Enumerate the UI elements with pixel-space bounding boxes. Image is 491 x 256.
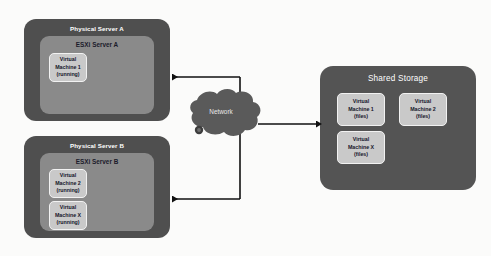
vm-label-line3: (files) <box>354 151 368 159</box>
vm-label-line2: Machine 1 <box>348 106 374 114</box>
vm-box-server-b-vmx: Virtual Machine X (running) <box>49 201 87 230</box>
vm-label-line3: (files) <box>416 113 430 121</box>
storage-vm-box-vm1: Virtual Machine 1 (files) <box>337 93 385 126</box>
esxi-server-b-title: ESXi Server B <box>40 158 154 165</box>
esxi-server-a-title: ESXi Server A <box>40 41 154 48</box>
vm-label-line1: Virtual <box>353 98 369 106</box>
vm-label-line1: Virtual <box>60 172 76 180</box>
network-label: Network <box>186 108 256 115</box>
cloud-node-icon <box>195 126 203 134</box>
vm-label-line3: (files) <box>354 113 368 121</box>
vm-label-line2: Machine X <box>348 144 374 152</box>
vm-label-line2: Machine X <box>55 212 81 220</box>
vm-label-line1: Virtual <box>60 56 76 64</box>
vm-label-line3: (running) <box>56 71 79 79</box>
network-cloud <box>190 89 260 136</box>
esxi-server-b-panel: ESXi Server B Virtual Machine 2 (running… <box>40 153 154 231</box>
vm-label-line1: Virtual <box>60 204 76 212</box>
storage-vm-box-vmx: Virtual Machine X (files) <box>337 131 385 164</box>
physical-server-b: Physical Server B ESXi Server B Virtual … <box>24 136 170 238</box>
vm-label-line2: Machine 2 <box>55 180 81 188</box>
vm-label-line1: Virtual <box>415 98 431 106</box>
storage-vm-box-vm2: Virtual Machine 2 (files) <box>399 93 447 126</box>
vm-label-line2: Machine 1 <box>55 64 81 72</box>
shared-storage: Shared Storage Virtual Machine 1 (files)… <box>320 66 476 190</box>
vm-label-line3: (running) <box>56 187 79 195</box>
physical-server-b-title: Physical Server B <box>24 142 170 149</box>
physical-server-a: Physical Server A ESXi Server A Virtual … <box>24 19 170 121</box>
vm-label-line3: (running) <box>56 219 79 227</box>
diagram-canvas: Physical Server A ESXi Server A Virtual … <box>0 0 491 256</box>
vm-box-server-b-vm2: Virtual Machine 2 (running) <box>49 169 87 198</box>
shared-storage-title: Shared Storage <box>320 74 476 83</box>
vm-label-line2: Machine 2 <box>410 106 436 114</box>
esxi-server-a-panel: ESXi Server A Virtual Machine 1 (running… <box>40 36 154 114</box>
vm-box-server-a-vm1: Virtual Machine 1 (running) <box>49 53 87 82</box>
vm-label-line1: Virtual <box>353 136 369 144</box>
physical-server-a-title: Physical Server A <box>24 25 170 32</box>
